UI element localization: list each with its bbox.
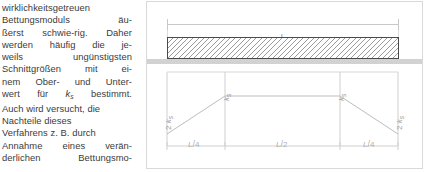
text-word: die [92, 39, 105, 51]
text-line: wertfürksbestimmt. [2, 88, 132, 103]
figure-inner: L [147, 2, 422, 168]
text-line: weilsungünstigsten [2, 51, 132, 63]
text-line: Bettungsmodulsäu- [2, 14, 132, 26]
span-label-center: L/2 [276, 139, 287, 149]
text-word: nem [2, 76, 20, 88]
text-word: äu- [118, 14, 132, 26]
text-line: Auch wird versucht, die [2, 103, 132, 115]
text-line: Schnittgrößenmitei- [2, 63, 132, 75]
text-word: Nachteile dieses [2, 115, 72, 127]
text-word: Auch wird versucht, die [2, 103, 100, 115]
label-bedding-2ks-right: 2 ks [395, 116, 405, 130]
text-word: ei- [121, 63, 132, 75]
text-word: derlichen [2, 152, 41, 164]
text-word: und [75, 76, 91, 88]
text-word: Schnittgrößen [2, 63, 61, 75]
label-bedding-2ks-left: 2 ks [164, 116, 174, 130]
text-line: derlichenBettungsmo- [2, 152, 132, 164]
text-word: je- [121, 39, 132, 51]
page-root: wirklichkeitsgetreuenBettungsmodulsäu-ße… [0, 0, 427, 172]
text-line: wirklichkeitsgetreuen [2, 2, 132, 14]
dimension-line-L: L [167, 24, 399, 25]
text-word: Ober- [35, 76, 59, 88]
text-line: Verfahrens z. B. durch [2, 127, 132, 139]
text-word: häufig [50, 39, 76, 51]
text-word: verän- [105, 140, 132, 152]
text-word: Unter- [106, 76, 132, 88]
text-word: wirklichkeitsgetreuen [2, 2, 90, 14]
text-word: Daher [106, 27, 132, 39]
text-line: nemOber-undUnter- [2, 76, 132, 88]
text-word: ks [66, 88, 74, 103]
span-label-right: L/4 [363, 139, 374, 149]
text-word: weils [2, 51, 23, 63]
span-label-left: L/4 [188, 139, 199, 149]
text-line: ßerstschwie-rig.Daher [2, 27, 132, 39]
label-bedding-ks-left: ks [222, 94, 232, 101]
text-word: Annahme [2, 140, 42, 152]
text-word: ßerst [2, 27, 24, 39]
text-word: für [37, 88, 48, 103]
text-line: Nachteile dieses [2, 115, 132, 127]
bedding-modulus-diagram [147, 64, 422, 169]
text-word: wert [2, 88, 20, 103]
body-text-column: wirklichkeitsgetreuenBettungsmodulsäu-ße… [0, 0, 136, 172]
text-line: Annahmeeinesverän- [2, 140, 132, 152]
text-word: Bettungsmo- [78, 152, 132, 164]
text-word: schwie-rig. [42, 27, 87, 39]
text-word: Bettungsmoduls [2, 14, 70, 26]
text-word: Verfahrens z. B. durch [2, 127, 96, 139]
text-word: werden [2, 39, 33, 51]
text-word: eines [62, 140, 85, 152]
foundation-beam [167, 37, 399, 59]
label-bedding-ks-right: ks [337, 94, 347, 101]
text-word: ungünstigsten [73, 51, 132, 63]
text-word: bestimmt. [91, 88, 132, 103]
text-line: werdenhäufigdieje- [2, 39, 132, 51]
symbol-ks-subscript: s [70, 93, 73, 100]
text-word: mit [85, 63, 98, 75]
figure-frame: L [146, 1, 423, 169]
